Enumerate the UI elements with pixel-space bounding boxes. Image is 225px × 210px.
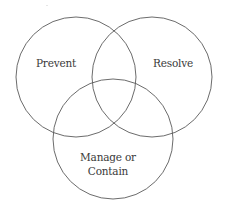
venn-diagram: Prevent Resolve Manage or Contain: [0, 0, 225, 210]
resolve-label-text: Resolve: [153, 56, 193, 70]
scan-artifact: [46, 5, 48, 6]
prevent-label-text: Prevent: [36, 56, 76, 70]
resolve-circle: [92, 17, 212, 137]
resolve-label: Resolve: [153, 56, 193, 70]
venn-circles: [0, 0, 225, 210]
manage-label-line-2: Contain: [80, 164, 136, 178]
prevent-circle: [16, 17, 136, 137]
prevent-label: Prevent: [36, 56, 76, 70]
manage-contain-circle: [53, 79, 173, 199]
manage-contain-label: Manage or Contain: [80, 150, 136, 178]
manage-label-line-1: Manage or: [80, 150, 136, 164]
